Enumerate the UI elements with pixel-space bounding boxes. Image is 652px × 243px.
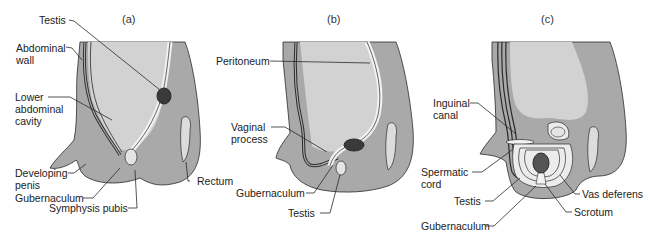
label-c-spermatic-cord-line1: Spermatic [421,166,468,178]
label-c-scrotum: Scrotum [574,206,613,218]
label-b-gubernaculum: Gubernaculum [236,187,305,199]
label-c-vas-deferens: Vas deferens [582,188,643,200]
label-a-abdominal-wall-line1: Abdominal [16,42,66,54]
label-a-lower-cavity-line2: abdominal [15,103,63,115]
label-a-testis: Testis [39,14,66,26]
panel-b-testis [336,161,346,175]
label-a-rectum: Rectum [197,175,233,187]
label-c-inguinal-canal-line2: canal [433,109,458,121]
label-a-developing-penis-line2: penis [15,179,40,191]
panel-c-gubernaculum [536,173,546,184]
label-c-inguinal-canal-line1: Inguinal [433,97,470,109]
testis-descent-diagram: (a) (b) (c) Testis Abdominal wall Lower … [0,0,652,243]
label-a-developing-penis-line1: Developing [15,167,68,179]
label-b-peritoneum: Peritoneum [216,55,270,67]
panel-c-testis [533,153,549,173]
panel-b-letter: (b) [327,13,340,25]
label-b-vaginal-process-line2: process [231,133,268,145]
panel-a-symphysis [125,149,137,165]
label-c-testis: Testis [454,195,481,207]
panel-c-cavity [510,42,588,120]
panel-a-illustration [48,20,200,208]
label-a-abdominal-wall-line2: wall [16,54,34,66]
panel-c-letter: (c) [541,13,554,25]
label-a-lower-cavity-line3: cavity [15,115,42,127]
label-c-gubernaculum: Gubernaculum [421,220,490,232]
label-a-symphysis-pubis: Symphysis pubis [49,202,128,214]
panel-a-testis [157,88,171,104]
panel-a-letter: (a) [122,13,135,25]
panel-b-testis-inner [344,139,364,151]
label-a-lower-cavity-line1: Lower [15,91,44,103]
label-c-spermatic-cord-line2: cord [421,178,441,190]
label-b-testis: Testis [288,207,315,219]
label-b-vaginal-process-line1: Vaginal [231,121,265,133]
